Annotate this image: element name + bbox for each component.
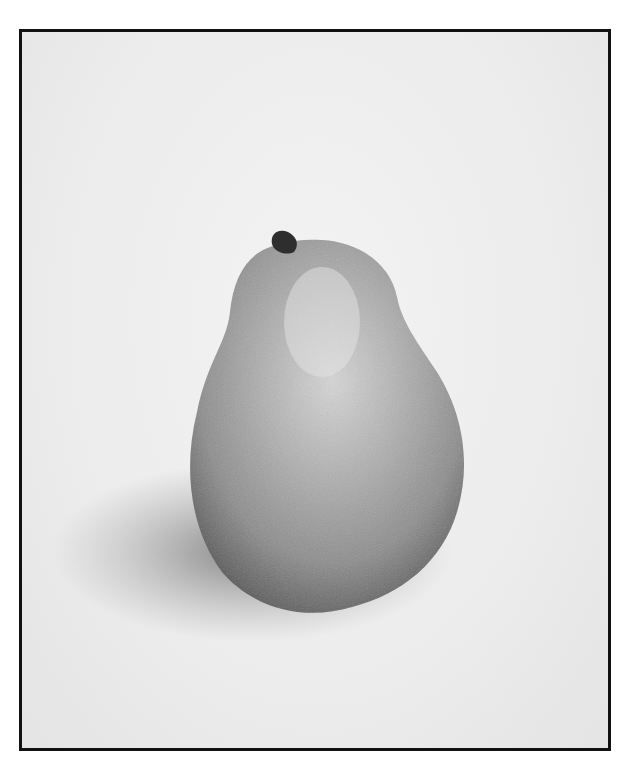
pear-highlight <box>284 267 360 377</box>
photo-frame <box>19 29 611 751</box>
pear-photo <box>22 32 608 748</box>
